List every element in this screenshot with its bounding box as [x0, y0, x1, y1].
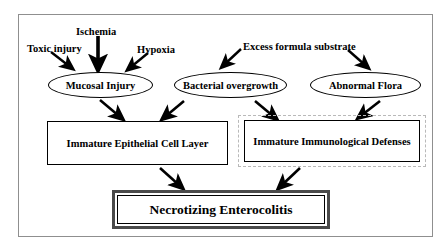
node-abnormal-flora[interactable]: Abnormal Flora	[310, 72, 421, 98]
arrow-immunological-defenses-to-necrotizing-enterocolitis	[282, 168, 300, 185]
node-label-mucosal-injury: Mucosal Injury	[66, 80, 136, 91]
arrow-hypoxia-to-mucosal-injury	[131, 53, 148, 67]
arrow-toxic-injury-to-mucosal-injury	[51, 52, 69, 66]
arrow-excess-substrate-to-bacterial-overgrowth	[225, 49, 241, 64]
arrow-excess-substrate-to-abnormal-flora	[348, 50, 365, 65]
arrow-mucosal-injury-to-epithelial-layer	[100, 100, 119, 116]
node-immature-epithelial-cell-layer[interactable]: Immature Epithelial Cell Layer	[47, 121, 228, 165]
node-immature-immunological-defenses[interactable]: Immature Immunological Defenses	[244, 120, 420, 162]
node-necrotizing-enterocolitis[interactable]: Necrotizing Enterocolitis	[112, 190, 330, 229]
node-label-immature-immunological-defenses: Immature Immunological Defenses	[253, 136, 410, 147]
node-label-abnormal-flora: Abnormal Flora	[329, 80, 402, 91]
arrow-epithelial-layer-to-necrotizing-enterocolitis	[160, 168, 179, 185]
node-bacterial-overgrowth[interactable]: Bacterial overgrowth	[174, 72, 287, 98]
arrow-bacterial-overgrowth-to-epithelial-layer	[166, 101, 184, 116]
arrow-bacterial-overgrowth-to-immunological-defenses	[255, 101, 273, 116]
node-label-immature-epithelial-cell-layer: Immature Epithelial Cell Layer	[67, 138, 209, 149]
node-mucosal-injury[interactable]: Mucosal Injury	[48, 72, 153, 98]
diagram-canvas: Toxic injury Ischemia Hypoxia Excess for…	[0, 0, 447, 251]
node-necrotizing-enterocolitis-inner: Necrotizing Enterocolitis	[117, 195, 325, 224]
node-label-bacterial-overgrowth: Bacterial overgrowth	[183, 80, 278, 91]
arrow-abnormal-flora-to-immunological-defenses	[362, 101, 380, 115]
node-label-necrotizing-enterocolitis: Necrotizing Enterocolitis	[149, 202, 292, 218]
